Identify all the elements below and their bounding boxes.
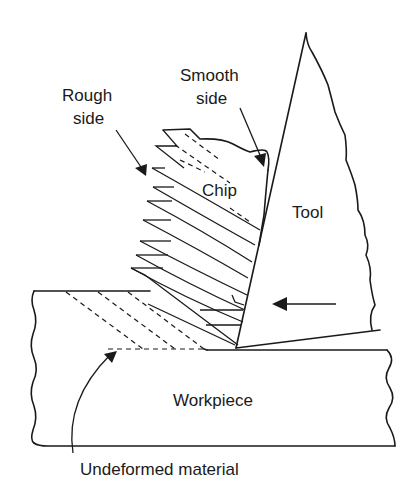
chip-formation-diagram: Rough side Smooth side Chip Tool Workpie… [0,0,411,495]
label-smooth-side-line1: Smooth [180,66,239,85]
label-tool: Tool [292,203,323,222]
shear-zone-dashes [66,292,207,349]
smooth-side-arrowhead-icon [254,153,266,167]
undeformed-arrowhead-icon [104,351,117,363]
label-workpiece: Workpiece [173,391,253,410]
label-rough-side-line1: Rough [62,86,112,105]
tool [236,33,380,348]
workpiece [31,291,395,446]
label-chip: Chip [202,181,237,200]
label-smooth-side-line2: side [196,89,227,108]
undeformed-leader [72,355,110,453]
feed-arrow-icon [272,297,287,311]
chip [131,129,269,345]
rough-side-arrowhead-icon [135,164,147,176]
smooth-side-leader [240,108,260,155]
rough-side-leader [116,130,143,170]
diagram-canvas: Rough side Smooth side Chip Tool Workpie… [0,0,411,495]
label-rough-side-line2: side [73,109,104,128]
label-undeformed-material: Undeformed material [80,460,239,479]
